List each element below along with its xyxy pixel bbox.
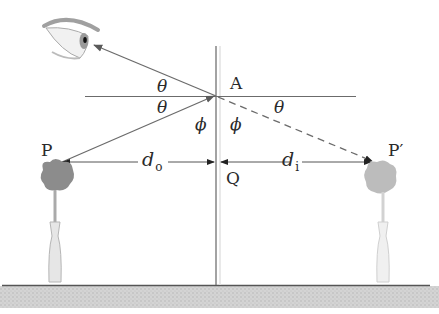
flower-vase-image-icon [364, 160, 396, 282]
incident-ray [62, 96, 214, 162]
phi-left-label: ϕ [195, 116, 207, 133]
eye-icon [44, 20, 98, 59]
point-p-image-label: P′ [388, 142, 403, 159]
ground [0, 286, 439, 309]
object-distance-line [62, 159, 215, 165]
object-distance-var: d [142, 148, 154, 170]
object-distance-subscript: o [155, 160, 162, 174]
image-distance-subscript: i [295, 160, 299, 174]
point-a-label: A [230, 75, 242, 92]
theta-lower-left-label: θ [157, 99, 167, 116]
image-distance-var: d [282, 148, 294, 170]
reflected-ray [94, 45, 216, 96]
theta-right-label: θ [274, 99, 284, 116]
image-distance-label: di [282, 150, 299, 169]
mirror-diagram: θ θ A θ ϕ ϕ P P′ Q do di [0, 0, 439, 314]
diagram-svg [0, 0, 439, 314]
point-p-label: P [41, 142, 52, 159]
point-q-label: Q [226, 170, 240, 187]
object-distance-label: do [142, 150, 162, 169]
theta-upper-left-label: θ [157, 78, 167, 95]
flower-vase-icon [41, 159, 74, 282]
phi-right-label: ϕ [230, 116, 242, 133]
mirror [216, 46, 220, 285]
